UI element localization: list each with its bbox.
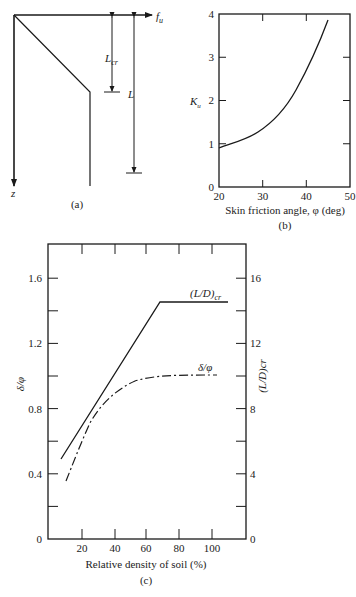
panel-b-ticks (219, 14, 350, 187)
ytick-label: 1 (209, 138, 215, 150)
l-label: L (127, 88, 134, 100)
xtick-label: 80 (174, 542, 186, 554)
ytick-label: 2 (209, 94, 215, 106)
ld-cr-line (61, 302, 228, 459)
xtick-label: 20 (77, 542, 89, 554)
ytick-right-label: 16 (250, 272, 262, 284)
ytick-label: 4 (209, 8, 215, 20)
panel-c-frame (48, 244, 246, 539)
xtick-label: 60 (141, 542, 153, 554)
ytick-right-label: 4 (250, 468, 256, 480)
ytick-label: 3 (209, 51, 215, 63)
xtick-label: 30 (257, 190, 269, 202)
xtick-label: 100 (204, 542, 221, 554)
ld-cr-series-label: (L/D)cr (190, 287, 222, 302)
panel-c-ylabel-left: δ/φ (14, 377, 26, 391)
ytick-left-label: 1.6 (28, 272, 42, 284)
fu-label: fu (156, 10, 163, 25)
ku-curve (219, 20, 328, 148)
delta-phi-series-label: δ/φ (198, 361, 212, 373)
delta-phi-curve (66, 375, 217, 481)
xtick-label: 40 (301, 190, 313, 202)
panel-c-xlabel: Relative density of soil (%) (86, 558, 207, 571)
lcr-label: Lcr (104, 52, 119, 67)
panel-b-frame (219, 14, 350, 187)
panel-c-ylabel-right: (L/D)cr (256, 358, 269, 392)
ytick-left-label: 0.4 (28, 468, 42, 480)
panel-c-ticks (48, 244, 246, 539)
figure-canvas: fu z Lcr L (a) 0 1 2 3 4 20 30 40 50 (0, 0, 356, 597)
ytick-left-label: 0 (37, 533, 43, 545)
z-label: z (10, 187, 16, 199)
panel-c-chart: (L/D)cr δ/φ 0 0.4 0.8 1.2 1.6 0 4 8 12 1… (14, 244, 269, 587)
panel-c-caption: (c) (140, 574, 153, 587)
panel-b-caption: (b) (279, 219, 292, 232)
ytick-left-label: 0.8 (28, 403, 42, 415)
panel-b-ylabel: Ku (189, 95, 201, 110)
panel-b-xlabel: Skin friction angle, φ (deg) (225, 204, 345, 217)
panel-a-caption: (a) (71, 198, 84, 211)
ytick-right-label: 8 (250, 403, 256, 415)
xtick-label: 50 (345, 190, 356, 202)
ytick-right-label: 0 (250, 533, 256, 545)
skin-friction-profile (14, 15, 90, 186)
xtick-label: 40 (110, 542, 122, 554)
ytick-right-label: 12 (250, 337, 261, 349)
ytick-left-label: 1.2 (28, 337, 42, 349)
panel-b-chart: 0 1 2 3 4 20 30 40 50 Ku Skin friction a… (189, 8, 356, 232)
xtick-label: 20 (214, 190, 226, 202)
panel-a-diagram: fu z Lcr L (a) (10, 10, 163, 211)
